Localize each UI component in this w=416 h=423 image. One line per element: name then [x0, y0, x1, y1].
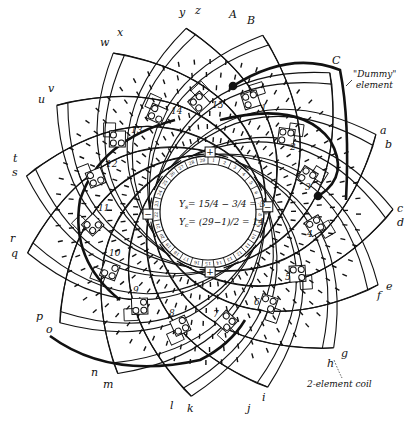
- slot-mark: [154, 261, 158, 265]
- lead-label-q: q: [11, 247, 18, 260]
- commutator-divider: [202, 260, 203, 268]
- slot-mark: [148, 71, 150, 76]
- lead-label-r: r: [10, 232, 16, 245]
- slot-mark: [139, 282, 142, 286]
- slot-mark: [327, 301, 331, 304]
- slot-mark: [267, 172, 271, 175]
- slot-mark: [340, 181, 345, 182]
- slot-mark: [134, 143, 138, 146]
- lead-end: [28, 243, 33, 253]
- slot-mark: [150, 85, 152, 90]
- slot-mark: [59, 178, 64, 179]
- commutator-segment-label: 4: [241, 171, 247, 177]
- lead-label-s: s: [12, 166, 18, 179]
- commutator-segment-label: 14: [216, 260, 223, 266]
- slot-mark: [262, 257, 266, 260]
- slot-mark: [144, 346, 146, 351]
- slot-mark: [113, 109, 116, 113]
- slot-mark: [277, 224, 282, 225]
- two-element-label: 2-element coil: [306, 379, 372, 389]
- slot-mark: [264, 335, 266, 340]
- slot-mark: [75, 255, 80, 257]
- slot-mark: [273, 238, 278, 240]
- coil-number-12: 12: [106, 159, 118, 169]
- lead-end: [183, 388, 191, 396]
- commutator-segment-label: 8: [257, 213, 262, 216]
- slot-mark: [137, 261, 141, 264]
- slot-mark: [159, 352, 161, 357]
- slot-mark: [162, 153, 165, 157]
- winding-diagram-svg: 1234567891011121314151617181920212223242…: [0, 0, 416, 423]
- slot-mark: [198, 138, 199, 143]
- slot-mark: [142, 154, 146, 157]
- slot-mark: [348, 260, 353, 262]
- brush-symbol: +: [206, 267, 214, 277]
- commutator-segment-label: 29: [199, 158, 205, 164]
- slot-mark: [133, 78, 135, 82]
- slot-mark: [277, 328, 280, 332]
- slot-mark: [287, 237, 292, 239]
- lead-label-d: d: [397, 216, 404, 229]
- slot-mark: [227, 140, 228, 145]
- slot-mark: [309, 280, 313, 283]
- brush-marker: +: [205, 267, 215, 277]
- slot-mark: [120, 259, 124, 262]
- slot-mark: [329, 194, 334, 195]
- slot-mark: [156, 158, 160, 162]
- lead-label-j: j: [244, 402, 251, 415]
- lead-label-A: A: [228, 8, 237, 21]
- slot-mark: [305, 159, 310, 161]
- commutator-segment-label: 28: [188, 159, 195, 166]
- slot-mark: [326, 278, 330, 280]
- slot-mark: [309, 301, 313, 304]
- slot-mark: [266, 348, 268, 353]
- slot-mark: [226, 293, 227, 298]
- lead-label-g: g: [341, 347, 348, 360]
- slot-mark: [190, 293, 191, 298]
- coil-number-15: 15: [212, 100, 224, 110]
- slot-mark: [291, 202, 296, 203]
- slot-mark: [262, 322, 264, 327]
- commutator-segment-label: 5: [248, 180, 254, 185]
- lead-label-h: h: [327, 357, 334, 370]
- terminal-circle: [141, 307, 147, 313]
- slot-mark: [221, 359, 222, 364]
- terminal-circle: [278, 137, 285, 144]
- slot-mark: [324, 141, 328, 144]
- lead-label-f: f: [376, 289, 383, 302]
- commutator-inner: [160, 164, 256, 260]
- lead-label-i: i: [262, 391, 266, 404]
- slot-mark: [120, 281, 124, 284]
- lead-label-t: t: [13, 152, 18, 165]
- lead-end: [263, 35, 269, 45]
- slot-mark: [280, 253, 284, 256]
- lead-end: [386, 209, 393, 218]
- slot-mark: [141, 243, 146, 245]
- slot-mark: [81, 268, 86, 270]
- slot-mark: [274, 187, 279, 189]
- coil-number-10: 10: [109, 248, 121, 258]
- slot-mark: [275, 231, 280, 232]
- slot-mark: [302, 234, 307, 235]
- lead-label-z: z: [194, 4, 201, 17]
- commutator-divider: [223, 258, 226, 266]
- slot-mark: [257, 279, 260, 283]
- coil-number-3: 3: [305, 182, 311, 192]
- coil-number-14: 14: [171, 106, 183, 116]
- slot-mark: [177, 75, 178, 80]
- slot-mark: [234, 291, 236, 296]
- slot-mark: [251, 340, 253, 345]
- slot-mark: [134, 199, 139, 200]
- terminal-circle: [290, 267, 296, 273]
- slot-mark: [290, 261, 294, 264]
- slot-mark: [122, 194, 127, 195]
- commutator-segment-label: 2: [222, 160, 226, 166]
- slot-mark: [326, 181, 331, 182]
- slot-mark: [194, 60, 195, 65]
- two-element-annotation: 2-element coil: [306, 360, 372, 389]
- slot-mark: [309, 100, 312, 104]
- coil-number-6: 6: [254, 297, 260, 307]
- slot-mark: [252, 353, 253, 358]
- slot-mark: [220, 138, 221, 143]
- coil-number-13: 13: [131, 125, 143, 135]
